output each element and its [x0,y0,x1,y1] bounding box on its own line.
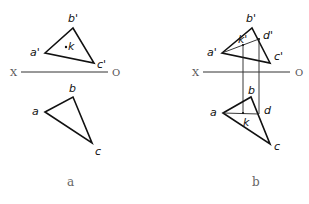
panel-b: a' b' c' d' k' X O a b c d k b [192,12,303,189]
panel-b-label-b: b [248,84,255,97]
panel-a-label-k: k [68,40,75,53]
panel-a-label-b-prime: b' [68,12,78,25]
panel-b-axis-x-label: X [192,67,200,78]
panel-a-label-a: a [32,105,39,118]
panel-b-label-c: c [274,140,280,153]
panel-a: a' b' c' k X O a b c a [10,12,120,189]
panel-b-label-c-prime: c' [274,50,283,63]
panel-a-label-b: b [69,82,76,95]
panel-b-label-k: k [243,116,250,129]
panel-b-label-k-prime: k' [238,33,247,46]
panel-b-label-d-prime: d' [263,29,273,42]
panel-a-label-a-prime: a' [30,46,40,59]
panel-a-label-c: c [95,145,101,158]
panel-b-point-k [242,112,244,114]
panel-a-point-k-dot [65,46,67,48]
panel-b-label-b-prime: b' [246,12,256,25]
panel-b-axis-o-label: O [295,67,303,78]
panel-a-label-c-prime: c' [97,58,106,71]
panel-a-axis-o-label: O [112,67,120,78]
panel-a-axis-x-label: X [10,67,18,78]
panel-b-label-d: d [264,104,272,117]
panel-b-label-a: a [210,106,217,119]
panel-a-top-triangle [45,97,92,143]
panel-b-label-a-prime: a' [207,46,217,59]
panel-a-caption: a [67,175,74,189]
panel-b-caption: b [252,175,260,189]
projection-diagram: a' b' c' k X O a b c a a' b' c' d' k' X … [0,0,309,204]
panel-b-top-line-ad [223,113,259,114]
